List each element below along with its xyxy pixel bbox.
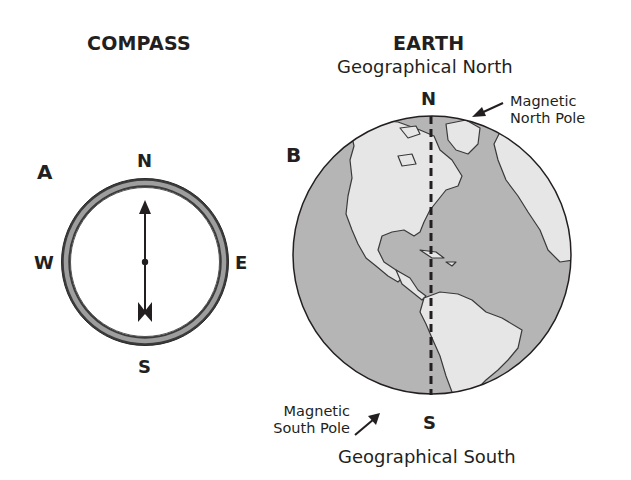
compass-east-label: E	[235, 252, 247, 273]
compass-needle	[138, 200, 152, 322]
magnetic-north-arrow	[472, 103, 503, 117]
magnetic-north-pole-label: Magnetic North Pole	[510, 93, 585, 127]
compass-south-label: S	[138, 356, 151, 377]
compass-north-label: N	[137, 150, 152, 171]
earth-north-marker: N	[421, 88, 436, 109]
compass-title: COMPASS	[87, 32, 191, 54]
geographical-north-label: Geographical North	[337, 56, 513, 77]
panel-label-a: A	[37, 160, 52, 184]
earth-south-marker: S	[423, 412, 436, 433]
panel-label-b: B	[286, 143, 301, 167]
magnetic-south-pole-label: Magnetic South Pole	[258, 403, 350, 437]
earth-globe	[293, 116, 574, 402]
geographical-south-label: Geographical South	[338, 446, 516, 467]
magnetic-south-arrow	[355, 413, 380, 435]
earth-title: EARTH	[393, 32, 464, 54]
compass-west-label: W	[34, 252, 54, 273]
